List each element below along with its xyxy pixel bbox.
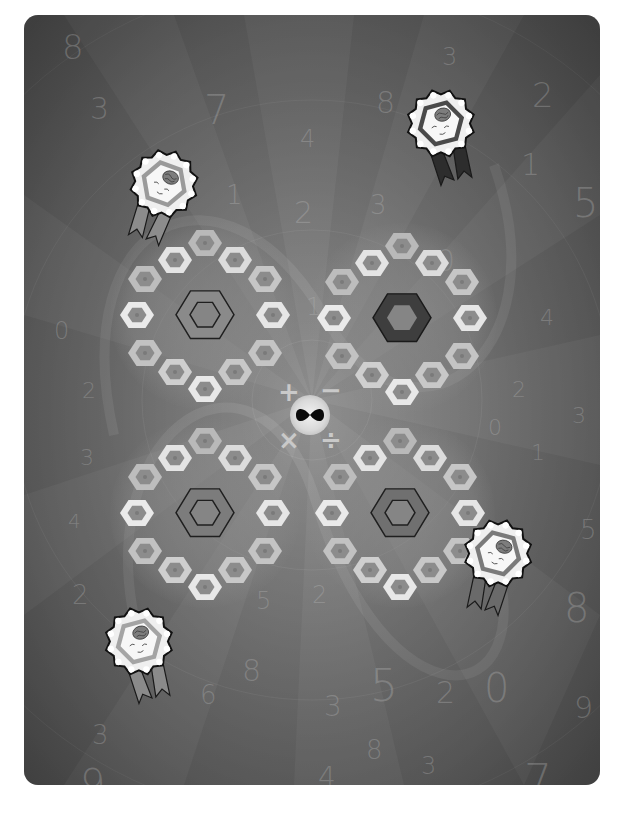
game-board: 8374832123401521402342301525286352089384… (24, 15, 600, 785)
player-badge-bottom-right[interactable] (443, 506, 546, 623)
player-badges (24, 15, 600, 785)
player-badge-bottom-left[interactable] (90, 594, 193, 711)
player-badge-top-left[interactable] (105, 134, 214, 255)
player-badge-top-right[interactable] (392, 76, 495, 193)
